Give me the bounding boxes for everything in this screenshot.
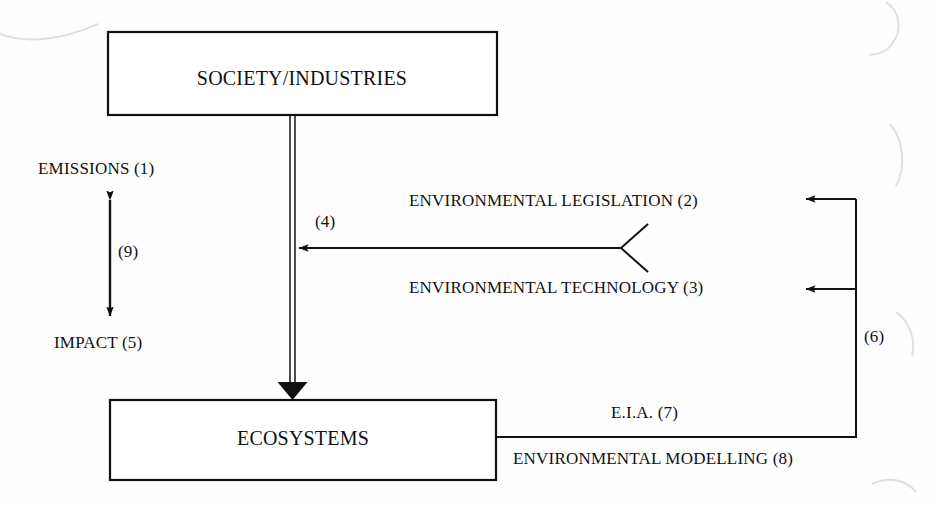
eia-label: E.I.A. (7): [611, 404, 678, 421]
diagram-canvas: SOCIETY/INDUSTRIES ECOSYSTEMS EMISSIONS …: [0, 0, 937, 505]
emissions-impact-ref: (9): [118, 243, 138, 260]
diagram-graphics: [0, 0, 937, 505]
ecosystems-label: ECOSYSTEMS: [237, 428, 369, 448]
legislation-technology-fork: [621, 224, 648, 272]
society-to-ecosystems-connector: [290, 115, 295, 384]
environmental-technology-label: ENVIRONMENTAL TECHNOLOGY (3): [409, 279, 703, 296]
impact-label: IMPACT (5): [54, 334, 142, 351]
society-industries-label: SOCIETY/INDUSTRIES: [197, 68, 407, 88]
control-inflow-ref: (4): [315, 213, 335, 230]
environmental-legislation-label: ENVIRONMENTAL LEGISLATION (2): [409, 192, 698, 209]
connector-arrowhead-icon: [278, 382, 308, 400]
environmental-modelling-label: ENVIRONMENTAL MODELLING (8): [513, 450, 793, 467]
emissions-label: EMISSIONS (1): [38, 160, 154, 177]
feedback-ref: (6): [864, 328, 884, 345]
